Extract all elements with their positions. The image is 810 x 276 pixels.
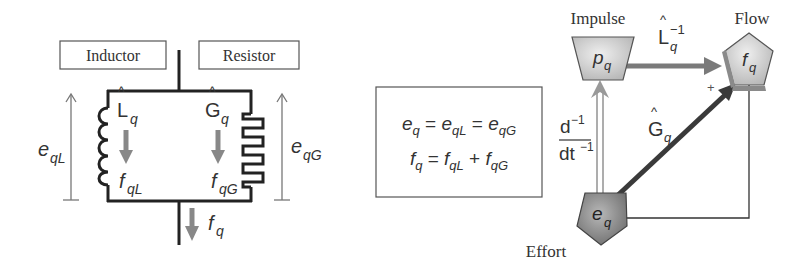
svg-text:f: f [208,212,216,234]
inductor-label: Inductor [86,47,141,64]
svg-text:q: q [664,130,672,145]
svg-text:q: q [130,111,138,127]
svg-text:p: p [592,47,604,68]
resistor-label: Resistor [223,47,276,64]
svg-text:−1: −1 [571,113,585,127]
effort-label: Effort [526,242,567,261]
flow-node: f q [722,33,773,91]
svg-text:G: G [205,99,221,121]
conductance-edge [617,83,736,196]
svg-text:^: ^ [209,84,216,100]
flow-arrow-total [185,208,199,241]
feedback-edge [626,85,749,218]
svg-text:e: e [291,135,302,157]
svg-text:^: ^ [118,84,125,100]
svg-text:q: q [749,60,757,75]
svg-text:f: f [119,170,127,192]
integral-edge-label: d −1 dt −1 [559,113,594,164]
svg-text:q: q [216,223,224,239]
effort-label-right: e qG [291,135,322,163]
circuit: Inductor Resistor ^ L [38,41,322,245]
svg-text:e: e [592,203,603,224]
svg-text:qL: qL [50,150,66,166]
svg-text:−1: −1 [670,22,685,37]
circuit-wires [107,50,252,245]
conductance-edge-label: ^ G q [648,104,672,145]
flow-arrow-resistor [211,130,225,164]
effort-node: e q [577,193,627,245]
flow-label-resistor: f qG [211,170,238,197]
svg-text:qL: qL [127,181,143,197]
svg-text:L: L [658,26,669,48]
inductor-coil [99,108,108,185]
flow-label: Flow [735,9,771,28]
effort-arrow-right [274,94,290,200]
resistor-meander [243,114,263,187]
svg-text:q: q [604,215,612,230]
integral-edge [591,80,609,195]
plus-sign: + [707,80,715,95]
effort-label-left: e qL [38,138,66,166]
flow-arrow-inductor [119,130,133,164]
svg-text:^: ^ [660,12,667,27]
svg-text:qG: qG [219,181,238,197]
inductance-edge-label: ^ L q −1 [658,12,685,54]
inductor-label-box: Inductor [60,41,166,69]
impulse-node: p q [572,37,634,80]
svg-text:q: q [670,39,678,54]
svg-text:f: f [211,170,219,192]
svg-text:q: q [604,58,612,73]
svg-text:q: q [221,111,229,127]
diagram-canvas: Inductor Resistor ^ L [0,0,810,276]
svg-text:−1: −1 [580,140,594,154]
flow-label-total: f q [208,212,224,239]
svg-text:G: G [648,118,664,140]
resistor-label-box: Resistor [199,41,299,69]
effort-arrow-left [63,94,79,200]
equations-box: eq = eqL = eqG fq = fqL + fqG [376,87,542,197]
svg-text:dt: dt [559,143,576,164]
inductance-edge [626,57,722,75]
svg-text:e: e [38,138,49,160]
svg-text:d: d [560,116,571,137]
impulse-label: Impulse [571,9,626,28]
flow-label-inductor: f qL [119,170,143,197]
bond-graph: Impulse Flow Effort p q [526,9,773,261]
svg-text:qG: qG [303,147,322,163]
svg-text:L: L [117,99,128,121]
svg-text:^: ^ [651,104,658,119]
